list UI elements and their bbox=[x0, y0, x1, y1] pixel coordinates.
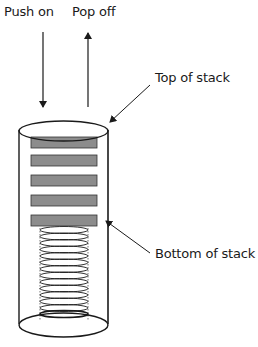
stack-diagram bbox=[0, 0, 258, 347]
spring-icon bbox=[40, 227, 88, 321]
plate-3 bbox=[31, 175, 97, 186]
top-pointer-arrow-icon bbox=[110, 85, 150, 122]
plate-2 bbox=[31, 155, 97, 166]
plate-5 bbox=[31, 215, 97, 226]
plate-4 bbox=[31, 195, 97, 206]
stack-plates bbox=[31, 137, 97, 226]
cylinder-bottom-rim bbox=[19, 313, 108, 337]
plate-1 bbox=[31, 137, 97, 148]
bottom-pointer-arrow-icon bbox=[106, 221, 150, 253]
